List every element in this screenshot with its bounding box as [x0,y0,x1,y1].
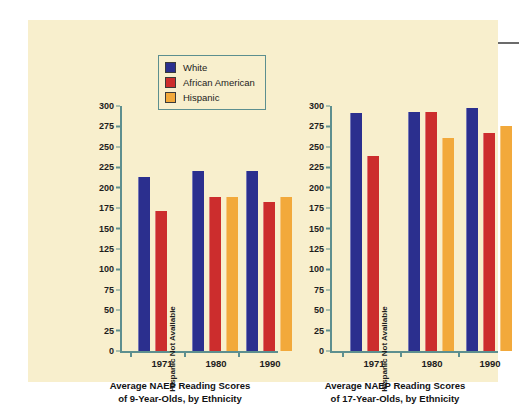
x-axis-line-right [330,351,498,353]
y-tick-right-300: 300 [309,102,330,111]
x-axis-label-1971: 1971 [151,358,172,369]
y-tick-label: 50 [314,306,324,315]
bar-white-1990 [246,171,258,351]
bar-group-1971: Hispanic Not Available [350,106,400,351]
y-tick-label: 0 [319,347,324,356]
y-tick-label: 50 [104,306,114,315]
y-tick-right-175: 175 [309,204,330,213]
x-tick-mark-1971 [342,353,344,357]
y-tick-right-275: 275 [309,122,330,131]
legend-swatch-african-american [165,77,176,88]
x-axis-label-1980: 1980 [205,358,226,369]
y-tick-label: 275 [309,122,324,131]
y-tick-left-300: 300 [99,102,120,111]
chart-caption-left: Average NAEP Reading Scores of 9-Year-Ol… [80,380,280,405]
x-tick-mark-1971 [130,353,132,357]
x-axis-label-1971: 1971 [363,358,384,369]
y-tick-label: 275 [99,122,114,131]
edge-rule [498,42,519,44]
bar-hispanic-1990 [500,126,512,351]
y-tick-left-0: 0 [109,347,120,356]
y-tick-label: 150 [309,224,324,233]
y-tick-left-100: 100 [99,265,120,274]
y-tick-right-0: 0 [319,347,330,356]
y-tick-label: 150 [99,224,114,233]
bar-white-1971 [350,113,362,351]
y-tick-label: 75 [314,285,324,294]
bar-african-american-1980 [209,197,221,351]
y-tick-left-275: 275 [99,122,120,131]
chart-naep-9-year-olds: 0255075100125150175200225250275300 Hispa… [80,106,280,401]
plot-area-right: Hispanic Not Available [330,106,500,351]
y-tick-right-200: 200 [309,183,330,192]
bar-group-1980 [408,106,454,351]
y-tick-label: 250 [99,142,114,151]
bar-group-1980 [192,106,238,351]
y-tick-right-150: 150 [309,224,330,233]
y-tick-left-250: 250 [99,142,120,151]
chart-legend: White African American Hispanic [158,55,266,110]
y-tick-label: 100 [309,265,324,274]
y-tick-label: 75 [104,285,114,294]
y-tick-label: 175 [309,204,324,213]
x-axis-label-1990: 1990 [479,358,500,369]
y-tick-right-100: 100 [309,265,330,274]
x-tick-mark-1990 [238,353,240,357]
y-tick-right-225: 225 [309,163,330,172]
legend-label-white: White [183,63,207,73]
y-tick-label: 300 [309,102,324,111]
y-tick-label: 175 [99,204,114,213]
y-tick-left-25: 25 [104,326,120,335]
legend-entry-african-american: African American [165,75,255,90]
y-tick-label: 25 [314,326,324,335]
legend-entry-hispanic: Hispanic [165,90,255,105]
y-tick-label: 0 [109,347,114,356]
bar-group-1971: Hispanic Not Available [138,106,188,351]
bar-white-1990 [466,108,478,351]
bar-african-american-1990 [263,202,275,351]
y-tick-right-75: 75 [314,285,330,294]
bar-african-american-1971 [367,156,379,351]
chart-caption-right: Average NAEP Reading Scores of 17-Year-O… [290,380,500,405]
bar-hispanic-1980 [442,138,454,351]
x-tick-mark-1990 [458,353,460,357]
y-tick-left-50: 50 [104,306,120,315]
y-tick-label: 225 [309,163,324,172]
y-tick-label: 300 [99,102,114,111]
legend-label-hispanic: Hispanic [183,93,219,103]
y-tick-label: 200 [309,183,324,192]
x-tick-mark-1980 [184,353,186,357]
y-tick-label: 125 [99,244,114,253]
legend-swatch-white [165,62,176,73]
y-tick-left-125: 125 [99,244,120,253]
y-tick-label: 100 [99,265,114,274]
y-tick-right-250: 250 [309,142,330,151]
bar-hispanic-1980 [226,197,238,351]
y-axis-ticks-right: 0255075100125150175200225250275300 [290,106,330,351]
chart-caption-left-line1: Average NAEP Reading Scores [80,380,280,393]
not-available-note: Hispanic Not Available [384,106,395,351]
legend-label-african-american: African American [183,78,255,88]
bar-group-1990 [466,106,512,351]
bar-white-1980 [192,171,204,351]
y-axis-ticks-left: 0255075100125150175200225250275300 [80,106,120,351]
not-available-label: Hispanic Not Available [379,306,390,392]
x-axis-label-1980: 1980 [421,358,442,369]
bar-african-american-1980 [425,112,437,351]
not-available-note: Hispanic Not Available [172,106,183,351]
x-tick-mark-1980 [400,353,402,357]
figure-panel: White African American Hispanic 02550751… [28,20,498,382]
y-tick-label: 25 [104,326,114,335]
bar-white-1971 [138,177,150,351]
y-tick-left-175: 175 [99,204,120,213]
bar-african-american-1971 [155,211,167,351]
y-tick-label: 250 [309,142,324,151]
y-tick-right-125: 125 [309,244,330,253]
chart-caption-left-line2: of 9-Year-Olds, by Ethnicity [80,393,280,405]
bar-african-american-1990 [483,133,495,351]
bar-white-1980 [408,112,420,351]
plot-area-left: Hispanic Not Available [120,106,280,351]
chart-naep-17-year-olds: 0255075100125150175200225250275300 Hispa… [290,106,500,401]
y-tick-left-225: 225 [99,163,120,172]
y-tick-label: 200 [99,183,114,192]
